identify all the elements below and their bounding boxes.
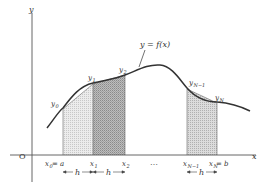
step-label-1: h xyxy=(75,168,80,177)
svg-text:N−1: N−1 xyxy=(187,163,200,169)
svg-text:x: x xyxy=(122,160,126,168)
svg-text:= b: = b xyxy=(216,160,229,168)
svg-text:= a: = a xyxy=(52,160,64,168)
ordinate-label-yn-1: y N−1 xyxy=(188,79,205,88)
svg-text:1: 1 xyxy=(93,77,96,83)
trapezoid-strip-2 xyxy=(93,75,125,155)
svg-text:x: x xyxy=(90,160,94,168)
y-axis-label: y xyxy=(28,5,34,14)
abscissa-label-x1: x 1 xyxy=(90,160,98,169)
step-width-arrows xyxy=(63,171,217,173)
svg-text:2: 2 xyxy=(126,163,130,169)
ellipsis: … xyxy=(150,158,158,167)
svg-text:0: 0 xyxy=(56,103,60,109)
ordinate-label-y1: y 1 xyxy=(87,74,96,83)
step-label-2: h xyxy=(106,168,111,177)
step-label-n: h xyxy=(199,168,204,177)
ordinate-label-yn: y N xyxy=(214,94,225,103)
abscissa-label-xn: x N = b xyxy=(209,160,229,169)
abscissa-label-x0: x 0 = a xyxy=(45,160,64,169)
origin-label: O xyxy=(19,152,26,161)
svg-text:N−1: N−1 xyxy=(193,82,206,88)
svg-text:1: 1 xyxy=(95,163,98,169)
ordinate-label-y0: y 0 xyxy=(50,100,60,109)
abscissa-label-xn-1: x N−1 xyxy=(183,160,199,169)
x-axis-label: x xyxy=(252,152,257,161)
svg-text:x: x xyxy=(45,160,49,168)
abscissa-label-x2: x 2 xyxy=(122,160,130,169)
curve-label: y = f(x) xyxy=(139,40,170,49)
svg-text:x: x xyxy=(209,160,213,168)
trapezoid-strip-1 xyxy=(63,84,93,155)
svg-text:x: x xyxy=(183,160,187,168)
trapezoidal-rule-figure: y x O y = f(x) y 0 y 1 y 2 y N−1 y N x 0… xyxy=(0,0,265,190)
svg-text:N: N xyxy=(219,97,225,103)
svg-text:2: 2 xyxy=(123,69,127,75)
ordinate-label-y2: y 2 xyxy=(118,66,127,75)
curve-label-leader xyxy=(139,50,145,67)
